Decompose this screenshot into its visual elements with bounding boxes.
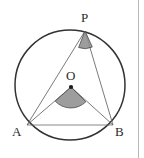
circle-outline	[15, 30, 125, 140]
vertex-label-O: O	[66, 69, 75, 82]
geometry-figure: P O A B	[0, 0, 144, 158]
segment-AP	[27, 31, 85, 125]
vertex-label-B: B	[115, 125, 124, 138]
vertex-label-P: P	[81, 11, 88, 24]
vertex-label-A: A	[12, 125, 21, 138]
panel-divider	[138, 0, 139, 158]
center-point-O	[69, 85, 73, 89]
angle-marker-O	[55, 87, 86, 108]
